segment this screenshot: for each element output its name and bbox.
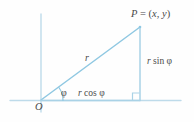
polar-coordinates-diagram: P = (x, y) r r sin φ r cos φ φ O xyxy=(0,0,194,122)
label-rsin-function: sin xyxy=(151,56,167,66)
label-p-close: ) xyxy=(167,8,171,19)
label-opposite-leg: r sin φ xyxy=(147,57,172,67)
point-p-marker xyxy=(139,26,142,29)
label-p-equals: = ( xyxy=(137,8,152,19)
label-origin-o: O xyxy=(35,102,43,113)
label-hypotenuse-r: r xyxy=(85,53,89,63)
right-angle-marker xyxy=(133,93,140,100)
label-angle-phi: φ xyxy=(61,88,67,98)
label-adjacent-leg: r cos φ xyxy=(78,89,105,99)
label-point-p: P = (x, y) xyxy=(131,9,170,20)
label-rcos-angle: φ xyxy=(99,88,104,98)
label-rsin-angle: φ xyxy=(167,56,172,66)
label-rcos-function: cos xyxy=(82,88,99,98)
